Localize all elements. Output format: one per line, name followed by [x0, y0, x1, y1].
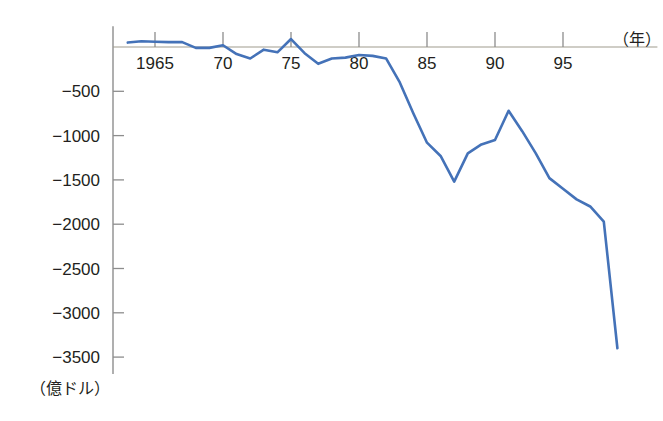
y-tick-label: −500 [62, 82, 100, 101]
y-axis-tick-labels: −500−1000−1500−2000−2500−3000−3500 [52, 82, 100, 367]
x-tick-label: 75 [282, 54, 301, 73]
series-line-1 [128, 39, 618, 348]
y-tick-label: −2000 [52, 215, 100, 234]
y-tick-label: −1500 [52, 171, 100, 190]
x-axis [113, 32, 657, 47]
chart-canvas: −500−1000−1500−2000−2500−3000−3500 19657… [0, 0, 663, 421]
y-axis [113, 26, 124, 374]
x-tick-label: 95 [554, 54, 573, 73]
y-tick-label: −2500 [52, 260, 100, 279]
data-series-group [128, 39, 618, 348]
y-tick-label: −3500 [52, 348, 100, 367]
y-tick-label: −1000 [52, 127, 100, 146]
x-tick-label: 90 [486, 54, 505, 73]
x-tick-label: 1965 [136, 54, 174, 73]
y-tick-label: −3000 [52, 304, 100, 323]
y-axis-unit-label: （億ドル） [30, 380, 110, 397]
trade-balance-chart: −500−1000−1500−2000−2500−3000−3500 19657… [0, 0, 663, 421]
x-tick-label: 85 [418, 54, 437, 73]
x-tick-label: 70 [214, 54, 233, 73]
x-axis-unit-label: （年） [613, 31, 661, 48]
